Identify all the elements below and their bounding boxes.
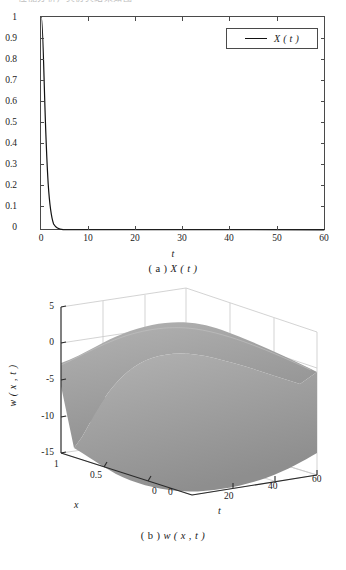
plot-b-zaxis-label: w ( x , t ): [7, 356, 18, 416]
plot-a-ytickmark-8: [40, 185, 44, 186]
plot-a-ytick-1: 0.9: [0, 34, 17, 44]
plot-a-ytickmark-1: [40, 38, 44, 39]
plot-a-xaxis-label: t: [0, 248, 346, 259]
plot-a-xtickmark-5: [277, 226, 278, 230]
plot-b-taxis-label: t: [218, 505, 221, 516]
plot-a-ytick-10: 0: [0, 223, 17, 233]
plot-b-ztick-2: -5: [22, 375, 54, 385]
plot-a-xtick-5: 50: [257, 234, 297, 244]
plot-a-xtick-4: 40: [209, 234, 249, 244]
plot-a-ytickmark-right-5: [321, 122, 325, 123]
plot-a-ytick-8: 0.2: [0, 181, 17, 191]
plot-b-ztick-3: -10: [22, 412, 54, 422]
plot-b-ttick-3: 60: [312, 475, 322, 485]
plot-a-ytickmark-2: [40, 59, 44, 60]
plot-a-ytick-2: 0.8: [0, 55, 17, 65]
figure-container: 性能分析，其仿真结果如图 1 0.9 0.8 0.7 0.6 0.5 0.4 0…: [0, 0, 346, 570]
plot-b-ttick-1: 20: [224, 492, 234, 502]
plot-a-ytick-7: 0.3: [0, 160, 17, 170]
plot-b-xtick-0: 1: [54, 460, 59, 470]
plot-a-ytickmark-right-1: [321, 38, 325, 39]
plot-a-xtickmark-top-2: [135, 17, 136, 21]
plot-a-xtickmark-2: [135, 226, 136, 230]
plot-a-xtickmark-top-1: [88, 17, 89, 21]
plot-a-ytickmark-4: [40, 101, 44, 102]
plot-a-xtick-6: 60: [304, 234, 344, 244]
panel-b: 5 0 -5 -10 -15 w ( x , t ) 1 0.5 0 0 20 …: [0, 285, 346, 570]
cropped-header-text-label: 性能分析，其仿真结果如图: [18, 0, 148, 3]
plot-a-ytickmark-3: [40, 80, 44, 81]
plot-a-xtick-3: 30: [162, 234, 202, 244]
plot-a-ytick-5: 0.5: [0, 118, 17, 128]
plot-a-ytickmark-6: [40, 143, 44, 144]
plot-a-ytick-0: 1: [0, 13, 17, 23]
panel-a-caption: ( a ) X ( t ): [0, 263, 346, 274]
plot-a-xtickmark-3: [182, 226, 183, 230]
plot-a-ytickmark-5: [40, 122, 44, 123]
plot-a-ytickmark-9: [40, 206, 44, 207]
plot-a-ytick-4: 0.6: [0, 97, 17, 107]
panel-b-caption-label: w ( x , t ): [163, 530, 205, 541]
plot-a-ytickmark-right-2: [321, 59, 325, 60]
plot-b-ztick-0: 5: [22, 302, 54, 312]
plot-a-xtickmark-top-3: [182, 17, 183, 21]
plot-a-ytickmark-right-7: [321, 164, 325, 165]
legend-line-swatch: [245, 38, 267, 39]
plot-b-ztick-1: 0: [22, 338, 54, 348]
plot-a-ytickmark-right-3: [321, 80, 325, 81]
plot-a-xtickmark-1: [88, 226, 89, 230]
plot-a-ytickmark-7: [40, 164, 44, 165]
plot-a-ytick-3: 0.7: [0, 76, 17, 86]
panel-a: 1 0.9 0.8 0.7 0.6 0.5 0.4 0.3 0.2 0.1 0 …: [0, 8, 346, 278]
plot-a-xtickmark-4: [229, 226, 230, 230]
plot-a-ytick-6: 0.4: [0, 139, 17, 149]
plot-a-ytick-9: 0.1: [0, 202, 17, 212]
plot-b-ttick-2: 40: [268, 482, 278, 492]
plot-a-xtickmark-top-4: [229, 17, 230, 21]
cropped-header-text: 性能分析，其仿真结果如图: [18, 0, 148, 7]
plot-b-ztick-4: -15: [22, 448, 54, 458]
plot-a-ytickmark-right-4: [321, 101, 325, 102]
panel-b-caption: ( b ) w ( x , t ): [0, 530, 346, 541]
plot-a-xtickmark-top-5: [277, 17, 278, 21]
plot-a-xtick-1: 10: [68, 234, 108, 244]
plot-a-ytickmark-right-9: [321, 206, 325, 207]
plot-a-xtick-2: 20: [115, 234, 155, 244]
legend-label: X ( t ): [274, 33, 299, 44]
plot-b-xaxis-label: x: [74, 499, 78, 510]
plot-a-ytickmark-right-8: [321, 185, 325, 186]
panel-a-caption-label: X ( t ): [170, 263, 197, 274]
panel-b-caption-prefix: ( b ): [141, 530, 161, 541]
panel-a-caption-prefix: ( a ): [149, 263, 168, 274]
plot-a-xtick-0: 0: [21, 234, 61, 244]
plot-a-ytickmark-right-6: [321, 143, 325, 144]
plot-b-xtick-2: 0: [152, 487, 157, 497]
plot-b-xtick-1: 0.5: [90, 471, 102, 481]
plot-b-surface-3d: [0, 285, 346, 535]
plot-a-legend: X ( t ): [226, 28, 318, 49]
plot-b-ttick-0: 0: [168, 488, 173, 498]
